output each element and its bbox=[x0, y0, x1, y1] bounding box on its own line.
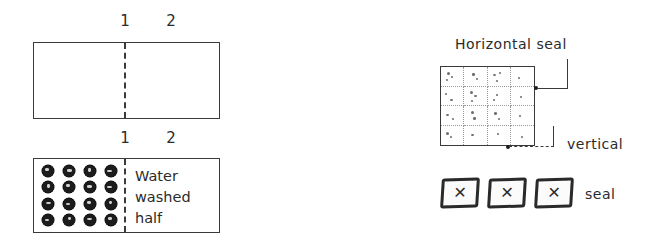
horizontal-seal-leader-riser bbox=[567, 59, 568, 88]
soil-spot bbox=[63, 165, 75, 177]
soil-spot bbox=[42, 165, 54, 177]
soil-cell bbox=[59, 196, 80, 212]
bottom-panel-label-2: 2 bbox=[146, 129, 196, 147]
figure-canvas: 1 2 1 2 bbox=[0, 0, 662, 247]
top-panel-rect bbox=[33, 42, 220, 119]
soil-spot bbox=[105, 181, 117, 193]
soil-spot-grid bbox=[34, 159, 124, 232]
sachet-item: ✕ bbox=[534, 178, 574, 209]
soil-spot bbox=[42, 214, 54, 226]
washed-line-3: half bbox=[135, 208, 230, 229]
water-washed-half-label: Water washed half bbox=[126, 159, 230, 239]
sachet-grid-cell bbox=[511, 106, 534, 126]
top-panel-label-1: 1 bbox=[100, 12, 150, 30]
washed-line-1: Water bbox=[135, 166, 230, 187]
soil-spot bbox=[84, 165, 96, 177]
soil-spot bbox=[42, 198, 54, 210]
top-panel-divider bbox=[124, 43, 126, 118]
soil-cell bbox=[38, 196, 59, 212]
sachet-grid-cell bbox=[441, 87, 464, 107]
sachet-grid-cell bbox=[441, 106, 464, 126]
soil-cell bbox=[80, 163, 101, 179]
vertical-seal-leader-line bbox=[509, 146, 554, 147]
sachet-grid-cell bbox=[441, 126, 464, 146]
sachet-grid-cell bbox=[488, 126, 511, 146]
sachet-grid-cells bbox=[441, 67, 534, 145]
soil-cell bbox=[100, 179, 121, 195]
soil-spot bbox=[84, 198, 96, 210]
soil-spot bbox=[84, 214, 96, 226]
sachet-grid-cell bbox=[464, 126, 487, 146]
soil-cell bbox=[59, 179, 80, 195]
sachet-grid-cell bbox=[488, 87, 511, 107]
soil-cell bbox=[80, 196, 101, 212]
soil-cell bbox=[80, 179, 101, 195]
soil-spot bbox=[42, 181, 54, 193]
soil-cell bbox=[80, 212, 101, 228]
top-panel-label-2: 2 bbox=[146, 12, 196, 30]
sachet-item: ✕ bbox=[487, 178, 527, 209]
soil-cell bbox=[38, 179, 59, 195]
sachet-grid-cell bbox=[441, 67, 464, 87]
soil-cell bbox=[100, 196, 121, 212]
sachet-grid-cell bbox=[488, 67, 511, 87]
soil-cell bbox=[59, 212, 80, 228]
soil-spot bbox=[63, 181, 75, 193]
soil-spot bbox=[105, 214, 117, 226]
sachet-grid-cell bbox=[511, 126, 534, 146]
soil-cell bbox=[100, 212, 121, 228]
soil-spot bbox=[84, 181, 96, 193]
soil-cell bbox=[38, 163, 59, 179]
soil-cell bbox=[100, 163, 121, 179]
vertical-seal-leader-riser bbox=[553, 126, 554, 147]
sachet-row: ✕ ✕ ✕ bbox=[441, 178, 573, 208]
soil-cell bbox=[38, 212, 59, 228]
soiled-half bbox=[34, 159, 124, 232]
soil-spot bbox=[105, 165, 117, 177]
bottom-panel-rect: Water washed half bbox=[33, 158, 220, 233]
horizontal-seal-leader-line bbox=[537, 88, 568, 89]
sachet-mark: ✕ bbox=[453, 185, 467, 201]
sachet-mark: ✕ bbox=[547, 185, 561, 201]
sachet-mark: ✕ bbox=[500, 185, 514, 201]
sachet-grid-cell bbox=[464, 106, 487, 126]
soil-spot bbox=[105, 198, 117, 210]
sachet-grid-cell bbox=[511, 67, 534, 87]
bottom-panel-label-1: 1 bbox=[100, 129, 150, 147]
horizontal-seal-label: Horizontal seal bbox=[455, 36, 567, 53]
vertical-seal-label: vertical seal bbox=[567, 103, 623, 235]
soil-spot bbox=[63, 198, 75, 210]
sachet-grid-cell bbox=[511, 87, 534, 107]
sachet-grid-cell bbox=[488, 106, 511, 126]
sachet-grid bbox=[440, 66, 535, 146]
sachet-grid-cell bbox=[464, 67, 487, 87]
sachet-item: ✕ bbox=[440, 178, 480, 209]
washed-line-2: washed bbox=[135, 187, 230, 208]
soil-cell bbox=[59, 163, 80, 179]
soil-spot bbox=[63, 214, 75, 226]
sachet-grid-cell bbox=[464, 87, 487, 107]
vertical-seal-line-1: vertical bbox=[567, 136, 623, 153]
vertical-seal-line-2: seal bbox=[567, 186, 623, 203]
